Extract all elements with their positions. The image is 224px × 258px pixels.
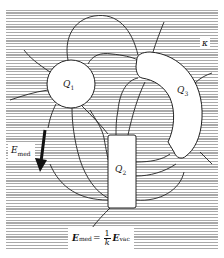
field-line xyxy=(72,108,108,198)
formula-lhs-sub: med xyxy=(79,236,92,242)
q1-label: Q1 xyxy=(63,79,74,91)
field-line xyxy=(88,53,138,64)
formula-fraction: 1 k xyxy=(104,230,111,247)
field-line xyxy=(136,154,170,162)
q2-label: Q2 xyxy=(115,164,126,176)
field-line xyxy=(48,104,56,128)
field-line xyxy=(24,50,50,72)
formula-equals: = xyxy=(93,234,101,243)
field-line xyxy=(195,73,212,83)
field-line xyxy=(92,208,110,228)
field-formula: Emed = 1 k Evac xyxy=(68,227,134,250)
conductor-q3 xyxy=(136,52,202,158)
field-line xyxy=(153,22,164,52)
field-line xyxy=(136,164,176,176)
field-line xyxy=(116,78,138,135)
dielectric-constant-label: κ xyxy=(200,38,210,49)
field-line xyxy=(136,172,184,200)
field-direction-arrow xyxy=(35,130,47,172)
field-line xyxy=(50,164,108,200)
field-line xyxy=(82,106,108,134)
formula-rhs-sub: vac xyxy=(119,236,129,242)
field-line xyxy=(200,152,212,164)
field-line xyxy=(10,90,48,100)
field-arrow-label: Emed xyxy=(8,143,35,160)
field-line xyxy=(128,82,145,135)
q3-label: Q3 xyxy=(177,85,188,97)
field-line-diagram xyxy=(0,0,224,258)
formula-lhs: E xyxy=(72,234,79,243)
